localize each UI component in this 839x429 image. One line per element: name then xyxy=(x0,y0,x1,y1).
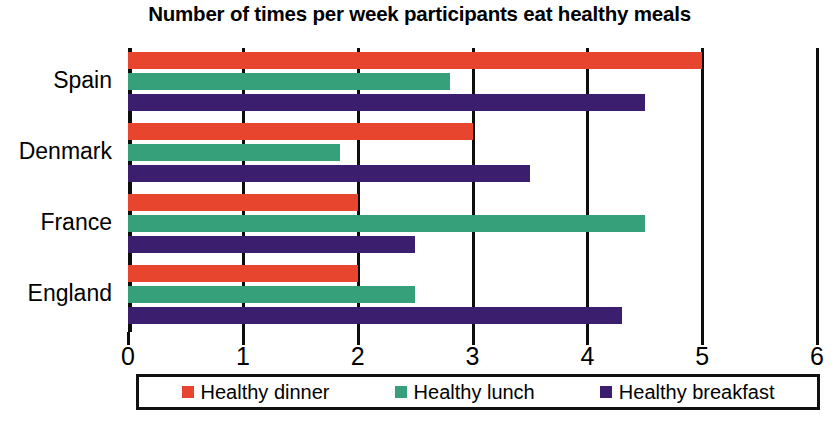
bar-england-lunch xyxy=(128,286,415,303)
bar-england-dinner xyxy=(128,265,358,282)
lunch-swatch xyxy=(395,386,407,398)
bar-england-breakfast xyxy=(128,307,622,324)
bar-spain-dinner xyxy=(128,52,702,69)
category-axis-labels: SpainDenmarkFranceEngland xyxy=(0,48,120,332)
gridline-4 xyxy=(586,48,589,332)
bar-spain-breakfast xyxy=(128,94,645,111)
page-bottom-edge xyxy=(0,415,839,429)
chart-legend: Healthy dinnerHealthy lunchHealthy break… xyxy=(136,374,820,410)
x-tick-label-3: 3 xyxy=(466,344,480,369)
legend-label-dinner: Healthy dinner xyxy=(201,381,330,404)
legend-label-lunch: Healthy lunch xyxy=(414,381,535,404)
bar-france-dinner xyxy=(128,194,358,211)
chart-title: Number of times per week participants ea… xyxy=(0,2,839,26)
plot-area xyxy=(128,48,817,332)
category-label-spain: Spain xyxy=(53,67,112,94)
gridline-6 xyxy=(816,48,819,332)
bar-france-breakfast xyxy=(128,236,415,253)
bar-chart: Number of times per week participants ea… xyxy=(0,0,839,429)
bar-france-lunch xyxy=(128,215,645,232)
legend-item-dinner[interactable]: Healthy dinner xyxy=(182,381,330,404)
legend-item-lunch[interactable]: Healthy lunch xyxy=(395,381,535,404)
gridline-5 xyxy=(701,48,704,332)
x-tick-label-6: 6 xyxy=(810,344,824,369)
legend-label-breakfast: Healthy breakfast xyxy=(619,381,775,404)
x-tick-label-2: 2 xyxy=(351,344,365,369)
bar-denmark-breakfast xyxy=(128,165,530,182)
category-label-england: England xyxy=(28,280,112,307)
bar-spain-lunch xyxy=(128,73,450,90)
x-tick-label-4: 4 xyxy=(580,344,594,369)
dinner-swatch xyxy=(182,386,194,398)
breakfast-swatch xyxy=(600,386,612,398)
x-tick-label-5: 5 xyxy=(695,344,709,369)
x-axis: 0123456 xyxy=(128,332,817,378)
bar-denmark-lunch xyxy=(128,144,340,161)
category-label-france: France xyxy=(40,209,112,236)
x-tick-label-0: 0 xyxy=(121,344,135,369)
category-label-denmark: Denmark xyxy=(19,138,112,165)
gridline-3 xyxy=(472,48,475,332)
bar-denmark-dinner xyxy=(128,123,473,140)
legend-item-breakfast[interactable]: Healthy breakfast xyxy=(600,381,775,404)
x-tick-label-1: 1 xyxy=(236,344,250,369)
